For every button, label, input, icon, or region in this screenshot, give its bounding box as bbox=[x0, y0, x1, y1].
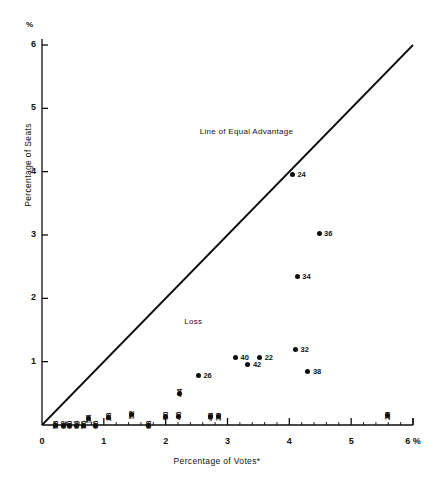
data-point bbox=[293, 347, 298, 352]
data-point bbox=[196, 373, 201, 378]
data-point-label: 34 bbox=[302, 272, 310, 281]
data-point bbox=[295, 274, 300, 279]
data-point-label: 46 bbox=[174, 412, 183, 420]
y-tick-label: 4 bbox=[20, 166, 36, 176]
line-of-equal-advantage bbox=[42, 45, 413, 425]
data-point-label: 36 bbox=[324, 229, 332, 238]
chart-canvas bbox=[0, 0, 434, 481]
y-axis-unit-label: % bbox=[26, 20, 33, 29]
x-tick-label: 1 bbox=[91, 436, 117, 446]
data-point-label: 38 bbox=[313, 367, 321, 376]
y-tick-label: 2 bbox=[20, 292, 36, 302]
data-point-label: 68 bbox=[144, 421, 153, 429]
scatter-chart: % Percentage of Seats Percentage of Vote… bbox=[0, 0, 434, 481]
y-tick-label: 3 bbox=[20, 229, 36, 239]
x-tick-label: 0 bbox=[29, 436, 55, 446]
x-tick-label: 3 bbox=[215, 436, 241, 446]
x-tick-label: 4 bbox=[276, 436, 302, 446]
data-point-label: 50 bbox=[161, 412, 170, 420]
x-tick-label: 2 bbox=[153, 436, 179, 446]
data-point-label: 40 bbox=[241, 353, 249, 362]
data-point-label: 20 bbox=[383, 411, 392, 419]
x-tick-label: 5 bbox=[338, 436, 364, 446]
data-point-label: 44 bbox=[175, 389, 184, 397]
data-point-label: 26 bbox=[203, 371, 211, 380]
y-tick-label: 5 bbox=[20, 102, 36, 112]
data-point-label: 52 bbox=[127, 411, 136, 419]
y-tick-label: 6 bbox=[20, 39, 36, 49]
data-point-label: 32 bbox=[301, 345, 309, 354]
x-axis-title: Percentage of Votes* bbox=[0, 456, 434, 466]
x-tick-label: 6 % bbox=[400, 436, 426, 446]
data-point-label: 24 bbox=[297, 170, 305, 179]
data-point-label: 66 bbox=[91, 421, 100, 429]
data-point-label: 30 bbox=[214, 412, 223, 420]
data-point-label: 28 bbox=[104, 413, 113, 421]
data-point bbox=[317, 231, 322, 236]
data-point-label: 42 bbox=[253, 360, 261, 369]
chart-annotation: Loss bbox=[184, 317, 202, 326]
chart-annotation: Line of Equal Advantage bbox=[200, 127, 294, 136]
y-tick-label: 1 bbox=[20, 356, 36, 366]
data-point-label: 22 bbox=[265, 353, 273, 362]
